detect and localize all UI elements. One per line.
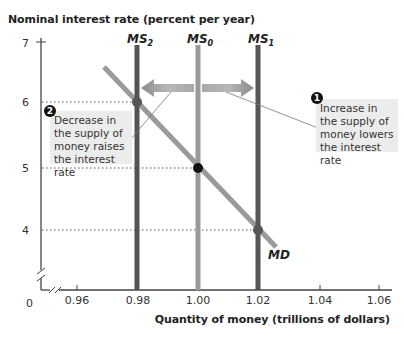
callout-one-leader [226, 92, 318, 128]
y-tick-label: 5 [22, 162, 29, 175]
money-market-chart: 7 6 5 4 0 0.96 0.98 1.00 1.02 1.04 1.06 [0, 0, 404, 340]
callout-two-badge: 2 [44, 105, 56, 117]
y-tick-label: 4 [22, 224, 29, 237]
equilibrium-point-ms2 [132, 97, 142, 107]
arrow-left-icon [141, 79, 194, 97]
callout-one: Increase in the supply of money lowers t… [316, 99, 398, 152]
arrow-right-icon [202, 79, 254, 97]
origin-label: 0 [26, 297, 33, 310]
x-tick-label: 1.06 [367, 294, 392, 307]
x-tick-label: 1.00 [186, 294, 211, 307]
equilibrium-point-ms1 [253, 225, 263, 235]
y-tick-labels: 7 6 5 4 0 [22, 37, 33, 310]
x-tick-label: 0.96 [65, 294, 90, 307]
x-tick-label: 0.98 [126, 294, 151, 307]
callout-one-badge: 1 [311, 92, 323, 104]
x-axis-title: Quantity of money (trillions of dollars) [155, 313, 390, 326]
x-tick-label: 1.02 [246, 294, 271, 307]
md-label: MD [268, 248, 290, 262]
x-tick-label: 1.04 [308, 294, 333, 307]
x-tick-labels: 0.96 0.98 1.00 1.02 1.04 1.06 [65, 294, 392, 307]
equilibrium-point-ms0 [193, 163, 203, 173]
ms1-label: MS1 [248, 32, 274, 48]
ms2-label: MS2 [127, 32, 154, 48]
y-axis-title: Nominal interest rate (percent per year) [8, 13, 255, 26]
y-tick-label: 7 [22, 37, 29, 50]
ms0-label: MS0 [187, 32, 214, 48]
callout-two: Decrease in the supply of money raises t… [50, 111, 132, 164]
y-tick-label: 6 [22, 96, 29, 109]
